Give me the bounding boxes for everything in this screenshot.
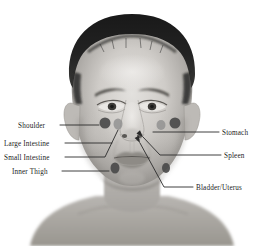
label-large-intestine: Large Intestine: [4, 140, 49, 149]
label-bladder-uterus: Bladder/Uterus: [196, 184, 242, 193]
chin-shadow: [119, 171, 145, 185]
facial-reflexology-figure: ShoulderLarge IntestineSmall IntestineIn…: [0, 0, 264, 246]
label-shoulder: Shoulder: [18, 122, 45, 131]
label-inner-thigh: Inner Thigh: [12, 168, 48, 177]
forehead-highlight: [98, 54, 166, 90]
label-spleen: Spleen: [224, 152, 244, 161]
nose-tip: [124, 129, 141, 140]
label-stomach: Stomach: [222, 129, 248, 138]
label-small-intestine: Small Intestine: [4, 154, 50, 163]
